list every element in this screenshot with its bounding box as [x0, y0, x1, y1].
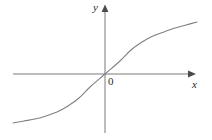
plot-canvas — [0, 0, 212, 140]
origin-label: 0 — [108, 76, 114, 87]
y-axis-arrow-icon — [102, 5, 109, 13]
y-axis-label: y — [93, 2, 98, 13]
math-figure: y x 0 — [0, 0, 212, 140]
x-axis-arrow-icon — [188, 71, 196, 78]
x-axis-label: x — [192, 79, 197, 90]
